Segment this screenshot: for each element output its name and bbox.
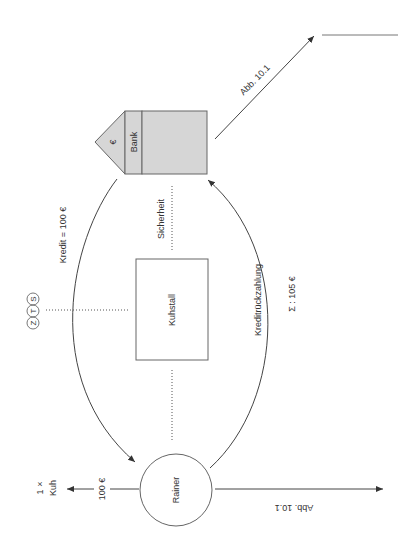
zts-letter-t: T (29, 308, 38, 313)
sum-label: Σ : 105 € (287, 276, 297, 312)
rainer-node: Rainer (140, 454, 212, 526)
zts-symbols: Z T S (27, 293, 39, 329)
bank-euro-symbol: € (108, 139, 118, 144)
bank-label: Bank (129, 131, 139, 152)
bank-node: € Bank (95, 111, 207, 174)
kuh-label: Kuh (48, 480, 58, 496)
kuhstall-node: Kuhstall (136, 259, 208, 360)
rainer-label: Rainer (171, 477, 181, 504)
sicherheit-label: Sicherheit (156, 198, 166, 239)
purchase-amount-label: 100 € (97, 478, 107, 501)
diagram-canvas: € Bank Kuhstall Rainer Kredit = 100 € Kr… (0, 0, 416, 552)
abb-diagonal-arrow (215, 36, 314, 139)
bank-body (142, 111, 207, 174)
abb-top-label: Abb. 10.1 (238, 63, 272, 98)
zts-letter-z: Z (29, 320, 38, 325)
kredit-arrow (73, 179, 135, 462)
rueckzahlung-label: Kreditrückzahlung (253, 264, 263, 336)
zts-letter-s: S (29, 296, 38, 301)
kuhstall-label: Kuhstall (167, 294, 177, 326)
kuh-count-label: 1 × (35, 482, 45, 495)
abb-bottom-label: Abb. 10.1 (275, 503, 314, 513)
kredit-label: Kredit = 100 € (58, 207, 68, 263)
